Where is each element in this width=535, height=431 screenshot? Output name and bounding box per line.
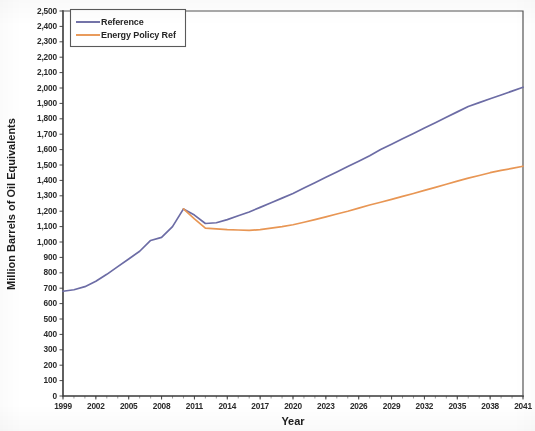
x-tick-label: 2041: [514, 401, 532, 411]
legend-label-reference: Reference: [101, 17, 144, 27]
y-tick-label: 1,200: [37, 206, 58, 216]
x-tick-label: 2014: [218, 401, 236, 411]
x-tick-label: 1999: [54, 401, 72, 411]
y-tick-label: 700: [44, 283, 58, 293]
x-tick-label: 2023: [317, 401, 335, 411]
x-tick-label: 2020: [284, 401, 302, 411]
x-tick-label: 2029: [383, 401, 401, 411]
line-chart: 01002003004005006007008009001,0001,1001,…: [0, 0, 535, 431]
plot-background: [63, 11, 523, 396]
y-tick-label: 2,200: [37, 52, 58, 62]
y-tick-label: 500: [44, 314, 58, 324]
y-tick-label: 2,400: [37, 21, 58, 31]
x-tick-label: 2008: [153, 401, 171, 411]
y-tick-label: 1,800: [37, 113, 58, 123]
x-tick-label: 2026: [350, 401, 368, 411]
x-tick-label: 2005: [120, 401, 138, 411]
x-tick-label: 2017: [251, 401, 269, 411]
y-axis-ticks: 01002003004005006007008009001,0001,1001,…: [37, 6, 63, 401]
x-axis-ticks: 1999200220052008201120142017202020232026…: [54, 396, 532, 411]
y-tick-label: 900: [44, 252, 58, 262]
x-axis-title: Year: [281, 415, 305, 427]
chart-container: 01002003004005006007008009001,0001,1001,…: [0, 0, 535, 431]
y-tick-label: 400: [44, 329, 58, 339]
chart-legend[interactable]: Reference Energy Policy Ref: [71, 10, 186, 47]
x-tick-label: 2011: [186, 401, 204, 411]
x-tick-label: 2032: [416, 401, 434, 411]
legend-border: [71, 10, 186, 47]
y-tick-label: 0: [53, 391, 58, 401]
y-tick-label: 1,700: [37, 129, 58, 139]
y-tick-label: 1,300: [37, 190, 58, 200]
y-tick-label: 1,900: [37, 98, 58, 108]
x-tick-label: 2035: [448, 401, 466, 411]
y-tick-label: 2,000: [37, 83, 58, 93]
x-tick-label: 2038: [481, 401, 499, 411]
y-tick-label: 100: [44, 375, 58, 385]
y-tick-label: 800: [44, 267, 58, 277]
y-tick-label: 300: [44, 344, 58, 354]
y-tick-label: 600: [44, 298, 58, 308]
y-tick-label: 2,500: [37, 6, 58, 16]
y-tick-label: 2,100: [37, 67, 58, 77]
x-tick-label: 2002: [87, 401, 105, 411]
legend-label-energy-policy-ref: Energy Policy Ref: [101, 30, 177, 40]
y-tick-label: 1,000: [37, 237, 58, 247]
y-tick-label: 1,600: [37, 144, 58, 154]
y-tick-label: 1,500: [37, 160, 58, 170]
y-tick-label: 1,400: [37, 175, 58, 185]
y-tick-label: 2,300: [37, 36, 58, 46]
y-axis-title: Million Barrels of Oil Equivalents: [5, 118, 17, 290]
y-tick-label: 1,100: [37, 221, 58, 231]
y-tick-label: 200: [44, 360, 58, 370]
